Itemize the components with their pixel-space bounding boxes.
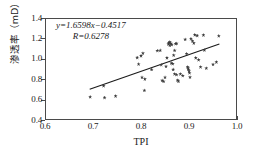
y-tick-label: 1.2 bbox=[31, 34, 42, 43]
scatter-chart-figure: 渗透率（mD） 0.40.60.81.01.21.4 0.60.70.80.91… bbox=[0, 0, 257, 165]
regression-annotation: y=1.6598x−0.4517 R=0.6278 bbox=[56, 20, 126, 42]
data-point bbox=[142, 88, 146, 92]
data-point bbox=[188, 75, 192, 79]
data-point bbox=[195, 34, 199, 38]
data-point bbox=[88, 95, 92, 99]
data-point bbox=[143, 77, 147, 81]
data-point bbox=[185, 52, 189, 56]
data-point bbox=[172, 53, 176, 57]
y-tick-label: 0.8 bbox=[31, 75, 42, 84]
x-axis-title: TPI bbox=[45, 136, 237, 147]
data-point bbox=[135, 56, 139, 60]
data-point bbox=[197, 58, 201, 62]
y-tick-label: 1.0 bbox=[31, 54, 42, 63]
data-point bbox=[173, 48, 177, 52]
y-tick-label: 0.6 bbox=[31, 95, 42, 104]
data-point bbox=[140, 75, 144, 79]
x-tick-label: 0.9 bbox=[184, 122, 195, 131]
regression-equation: y=1.6598x−0.4517 bbox=[56, 20, 126, 31]
data-point bbox=[150, 67, 154, 71]
data-point bbox=[194, 56, 198, 60]
x-tick-mark bbox=[237, 116, 238, 120]
x-tick-label: 0.6 bbox=[40, 122, 51, 131]
y-axis-title: 渗透率（mD） bbox=[10, 0, 20, 74]
data-point bbox=[164, 64, 168, 68]
x-tick-label: 1.0 bbox=[232, 122, 243, 131]
x-tick-label: 0.8 bbox=[136, 122, 147, 131]
data-point bbox=[201, 33, 205, 37]
data-point bbox=[202, 48, 206, 52]
data-point bbox=[165, 56, 169, 60]
data-point bbox=[137, 62, 141, 66]
data-point bbox=[141, 51, 145, 55]
data-point bbox=[163, 75, 167, 79]
y-tick-label: 1.4 bbox=[31, 14, 42, 23]
data-point bbox=[103, 96, 107, 100]
data-point bbox=[155, 49, 159, 53]
data-point bbox=[102, 84, 106, 88]
data-point bbox=[204, 66, 208, 70]
x-tick-label: 0.7 bbox=[88, 122, 99, 131]
data-point bbox=[171, 67, 175, 71]
data-point bbox=[217, 34, 221, 38]
data-point bbox=[183, 37, 187, 41]
data-point bbox=[193, 33, 197, 37]
data-point bbox=[199, 65, 203, 69]
data-point bbox=[211, 62, 215, 66]
data-point bbox=[159, 63, 163, 67]
correlation-coefficient: R=0.6278 bbox=[56, 31, 126, 42]
data-point bbox=[114, 94, 118, 98]
data-point bbox=[214, 60, 218, 64]
